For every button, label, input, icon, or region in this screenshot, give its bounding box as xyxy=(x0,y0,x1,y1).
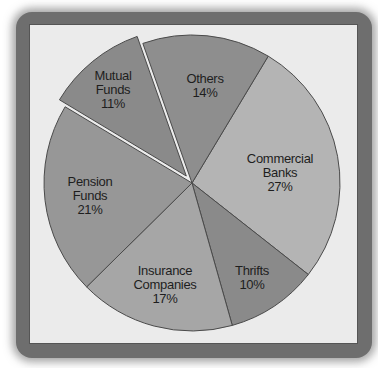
slice-name-line: Funds xyxy=(68,189,113,203)
slice-label-insurance-companies: InsuranceCompanies17% xyxy=(133,264,196,306)
slice-name-line: Mutual xyxy=(94,69,131,83)
slice-percent: 21% xyxy=(68,203,113,217)
slice-name-line: Pension xyxy=(68,175,113,189)
slice-label-others: Others14% xyxy=(186,72,223,100)
slice-name-line: Banks xyxy=(247,166,313,180)
slice-label-commercial-banks: CommercialBanks27% xyxy=(247,152,313,194)
slice-label-mutual-funds: MutualFunds11% xyxy=(94,69,131,111)
pie-chart xyxy=(0,0,378,368)
slice-name-line: Insurance xyxy=(133,264,196,278)
slice-name-line: Others xyxy=(186,72,223,86)
slice-name-line: Funds xyxy=(94,83,131,97)
slice-percent: 17% xyxy=(133,292,196,306)
slice-percent: 14% xyxy=(186,86,223,100)
slice-percent: 27% xyxy=(247,180,313,194)
slice-name-line: Companies xyxy=(133,278,196,292)
slice-percent: 11% xyxy=(94,97,131,111)
slice-label-pension-funds: PensionFunds21% xyxy=(68,175,113,217)
slice-name-line: Thrifts xyxy=(235,264,269,278)
slice-percent: 10% xyxy=(235,278,269,292)
slice-label-thrifts: Thrifts10% xyxy=(235,264,269,292)
slice-name-line: Commercial xyxy=(247,152,313,166)
